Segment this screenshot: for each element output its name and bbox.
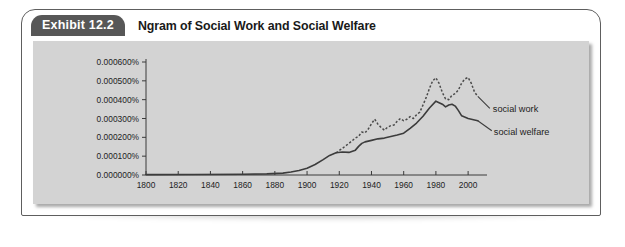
y-tick-label: 0.000400% (97, 95, 140, 105)
x-tick-label: 1800 (137, 180, 156, 190)
y-axis-tick-marks (142, 62, 146, 175)
x-tick-label: 1920 (330, 180, 349, 190)
exhibit-title: Ngram of Social Work and Social Welfare (138, 19, 376, 33)
x-tick-label: 1960 (394, 180, 413, 190)
chart-panel: 0.000000%0.000100%0.000200%0.000300%0.00… (33, 41, 589, 204)
x-tick-label: 2000 (459, 180, 478, 190)
y-tick-label: 0.000100% (97, 151, 140, 161)
y-tick-label: 0.000300% (97, 114, 140, 124)
x-tick-label: 1980 (427, 180, 446, 190)
exhibit-header: Exhibit 12.2 Ngram of Social Work and So… (22, 10, 600, 40)
series-line-social-work (336, 77, 478, 152)
exhibit-card: Exhibit 12.2 Ngram of Social Work and So… (21, 9, 601, 216)
ngram-line-chart: 0.000000%0.000100%0.000200%0.000300%0.00… (33, 41, 589, 204)
series-label-social-work: social work (493, 104, 539, 114)
x-tick-label: 1880 (266, 180, 285, 190)
series-line-social-welfare (146, 101, 478, 174)
y-tick-label: 0.000500% (97, 76, 140, 86)
x-tick-label: 1940 (362, 180, 381, 190)
x-tick-label: 1820 (169, 180, 188, 190)
leader-line-social-work (478, 96, 490, 108)
x-axis-tick-labels: 1800182018401860188019001920194019601980… (137, 180, 478, 190)
y-axis-tick-labels: 0.000000%0.000100%0.000200%0.000300%0.00… (97, 57, 140, 180)
y-tick-label: 0.000600% (97, 57, 140, 67)
x-tick-label: 1840 (201, 180, 220, 190)
y-tick-label: 0.000200% (97, 132, 140, 142)
y-tick-label: 0.000000% (97, 170, 140, 180)
leader-line-social-welfare (478, 121, 492, 131)
x-tick-label: 1900 (298, 180, 317, 190)
x-tick-label: 1860 (233, 180, 252, 190)
exhibit-number-tab: Exhibit 12.2 (31, 15, 125, 37)
series-label-social-welfare: social welfare (494, 127, 550, 137)
